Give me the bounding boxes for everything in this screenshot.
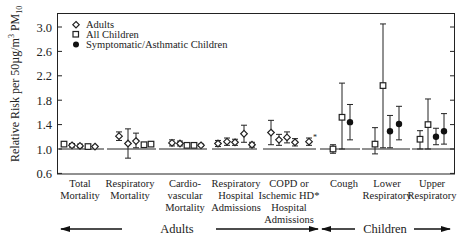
y-tick-label: 3.0 [36, 21, 52, 35]
relative-risk-chart: Relative Risk per 50µg/m3 PM10 0.61.01.4… [0, 0, 461, 245]
data-point [276, 134, 283, 145]
y-tick-label: 2.6 [36, 45, 52, 59]
data-point [148, 141, 154, 147]
filled-circle-icon [73, 42, 79, 48]
category-label: LowerRespiratory [363, 178, 413, 201]
category-label: TotalMortality [60, 178, 100, 201]
open-square-icon [339, 114, 345, 120]
data-point [215, 140, 222, 147]
y-tick-label: 1.0 [36, 143, 52, 157]
category-label: COPD orIschemic HD*HospitalAdmissions [259, 178, 320, 225]
filled-circle-icon [441, 128, 447, 134]
data-point [116, 132, 123, 141]
open-square-icon [184, 143, 190, 149]
svg-text:Symptomatic/Asthmatic Children: Symptomatic/Asthmatic Children [86, 39, 228, 50]
open-diamond-icon [306, 138, 313, 145]
category-label: RespiratoryHospitalAdmissions [211, 178, 261, 213]
filled-circle-icon [433, 134, 439, 140]
open-diamond-icon [198, 142, 205, 149]
data-point [61, 141, 67, 147]
legend: Adults All Children Symptomatic/Asthmati… [73, 19, 228, 50]
open-square-icon [380, 83, 386, 89]
open-diamond-icon [169, 140, 176, 147]
data-point [417, 131, 423, 149]
children-group-indicator: Children [322, 222, 450, 236]
data-point [133, 133, 140, 148]
data-point [347, 104, 353, 139]
open-square-icon [372, 141, 378, 147]
open-diamond-icon [232, 139, 239, 146]
data-point [425, 99, 431, 149]
data-point [69, 142, 76, 149]
data-point [396, 106, 402, 140]
category-label: RespiratoryMortality [106, 178, 156, 201]
data-point [249, 141, 256, 148]
data-point [184, 143, 190, 149]
data-point [224, 138, 231, 145]
data-point [330, 145, 336, 154]
footnote-marker: * [313, 133, 317, 142]
data-point [125, 129, 132, 158]
open-square-icon [61, 141, 67, 147]
data-point [141, 142, 147, 148]
filled-circle-icon [387, 128, 393, 134]
data-point [191, 143, 197, 149]
open-diamond-icon [292, 139, 299, 146]
open-diamond-icon [133, 138, 140, 145]
open-diamond-icon [241, 130, 248, 137]
y-axis-label: Relative Risk per 50µg/m3 PM10 [7, 6, 24, 162]
legend-item-symptomatic-children: Symptomatic/Asthmatic Children [73, 39, 228, 50]
data-point [77, 143, 84, 150]
open-square-icon [85, 144, 91, 150]
data-point [232, 139, 239, 146]
open-square-icon [148, 141, 154, 147]
open-square-icon [417, 136, 423, 142]
open-diamond-icon [268, 129, 275, 136]
data-point [292, 139, 299, 146]
y-tick-label: 1.8 [36, 94, 52, 108]
data-point [380, 24, 386, 148]
data-point [169, 140, 176, 147]
y-tick-label: 2.2 [36, 69, 52, 83]
open-diamond-icon [73, 22, 79, 28]
category-label: Cough [330, 178, 359, 189]
svg-text:Adults: Adults [160, 222, 193, 236]
category-label: Cardio-vascularMortality [165, 178, 205, 213]
data-point [372, 128, 378, 154]
filled-circle-icon [347, 119, 353, 125]
open-diamond-icon [284, 134, 291, 141]
data-point [433, 128, 439, 144]
data-point [177, 140, 184, 147]
svg-text:Children: Children [363, 222, 407, 236]
open-diamond-icon [215, 140, 222, 147]
y-tick-label: 0.6 [36, 167, 52, 181]
open-square-icon [73, 32, 79, 38]
open-diamond-icon [125, 140, 132, 147]
open-diamond-icon [116, 133, 123, 140]
open-diamond-icon [276, 137, 283, 144]
open-square-icon [191, 143, 197, 149]
data-point [268, 120, 275, 144]
open-square-icon [141, 142, 147, 148]
data-point: * [306, 133, 317, 146]
data-point [85, 144, 91, 150]
data-point [284, 132, 291, 143]
open-square-icon [330, 146, 336, 152]
data-point [241, 125, 248, 142]
category-label: UpperRespiratory [408, 178, 458, 201]
data-point [339, 83, 345, 149]
open-diamond-icon [224, 138, 231, 145]
data-point [198, 142, 205, 149]
data-point [441, 114, 447, 144]
y-tick-label: 1.4 [36, 118, 52, 132]
open-square-icon [425, 122, 431, 128]
category-labels: TotalMortalityRespiratoryMortalityCardio… [60, 178, 457, 225]
filled-circle-icon [396, 121, 402, 127]
data-point [387, 115, 393, 147]
